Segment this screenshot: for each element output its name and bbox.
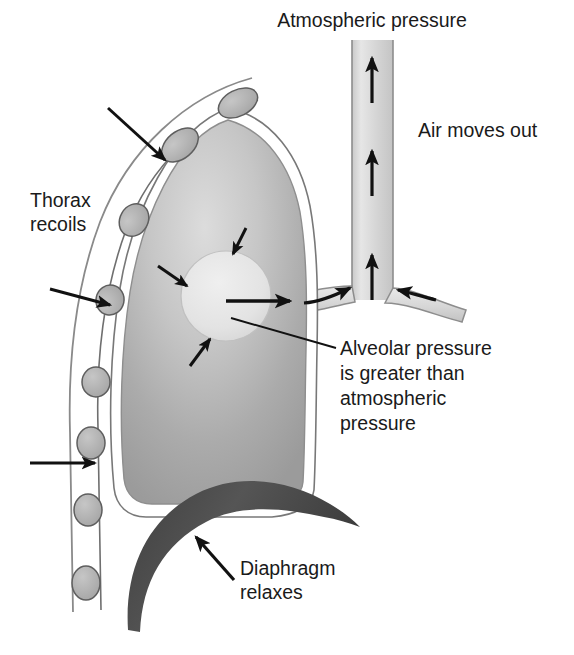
thorax-recoils-line-1: Thorax [30, 189, 91, 211]
alveolar-pressure-line-3: atmospheric [340, 387, 446, 409]
expiration-figure-svg: Atmospheric pressure Air moves out Thora… [0, 0, 574, 655]
rib-cross-section [82, 367, 110, 397]
diaphragm-pointer-arrow [196, 537, 234, 580]
atmospheric-pressure-label: Atmospheric pressure [277, 9, 467, 31]
right-bronchus [385, 288, 466, 322]
diaphragm-relaxes-line-1: Diaphragm [240, 557, 335, 579]
alveolar-pressure-line-4: pressure [340, 412, 416, 434]
alveolus [181, 251, 271, 341]
air-moves-out-label: Air moves out [418, 119, 538, 141]
alveolar-pressure-label: Alveolar pressure is greater than atmosp… [340, 337, 497, 434]
diaphragm-relaxes-line-2: relaxes [240, 581, 303, 603]
rib-cross-section [74, 494, 102, 526]
rib-cross-section [72, 566, 100, 600]
alveolar-pressure-line-2: is greater than [340, 362, 465, 384]
thorax-recoils-label: Thorax recoils [30, 189, 96, 235]
rib-cross-section [77, 427, 105, 459]
respiration-diagram: Atmospheric pressure Air moves out Thora… [0, 0, 574, 655]
alveolar-pressure-line-1: Alveolar pressure [340, 337, 492, 359]
diaphragm-pointer-arrow-group [196, 537, 234, 580]
diaphragm-relaxes-label: Diaphragm relaxes [240, 557, 341, 603]
thorax-recoils-line-2: recoils [30, 213, 87, 235]
